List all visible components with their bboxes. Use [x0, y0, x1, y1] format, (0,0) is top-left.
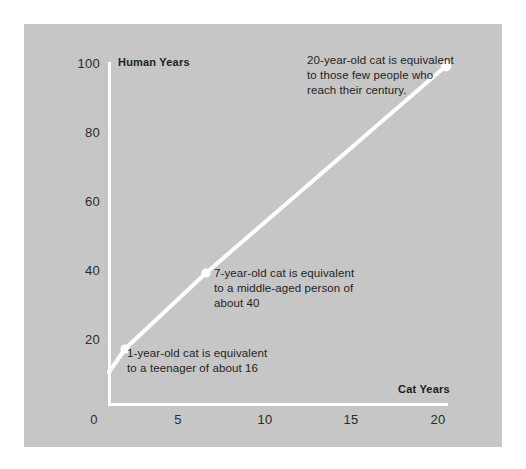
chart-figure: 100 80 60 40 20 0 5 10 15 20 Human Years…: [0, 0, 526, 469]
annotation-20-year: 20-year-old cat is equivalent to those f…: [307, 53, 457, 98]
data-line: [109, 66, 446, 372]
annotation-7-year: 7-year-old cat is equivalent to a middle…: [214, 266, 364, 311]
data-point-7-year: [201, 268, 210, 277]
annotation-1-year: 1-year-old cat is equivalent to a teenag…: [127, 346, 287, 376]
